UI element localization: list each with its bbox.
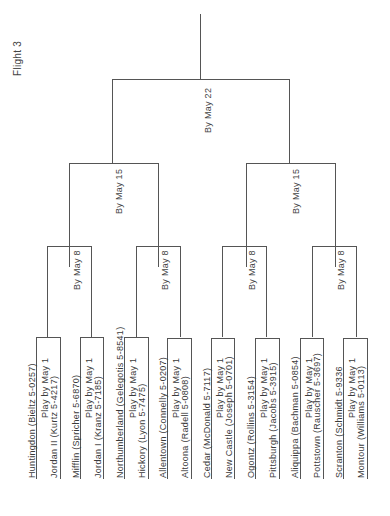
match-6-team-a: Ogontz (Rollins 5-3154) bbox=[246, 376, 256, 478]
semi-right-bar bbox=[246, 163, 335, 164]
match-6-leg-b bbox=[279, 338, 280, 479]
match-6-bar bbox=[255, 338, 279, 339]
match-2-team-b: Jordan I (Kranz 5-7185) bbox=[93, 376, 103, 478]
match-8-team-a: Scranton (Schmidt 5-9336 bbox=[334, 366, 344, 478]
match-8-leg-b bbox=[367, 338, 368, 479]
round-label-semi-left: By May 15 bbox=[114, 169, 124, 214]
round-label-final: By May 22 bbox=[203, 88, 213, 133]
match-4-leg-b bbox=[191, 338, 192, 479]
match-1-team-b: Jordan II (Kurtz 5-4217) bbox=[49, 376, 59, 478]
match-4-team-b: Altoona (Radell 5-0808) bbox=[180, 376, 190, 478]
match-5-leg-b bbox=[234, 338, 235, 479]
semi-left-leg-a bbox=[69, 163, 70, 267]
quarter-4-bar bbox=[312, 246, 356, 247]
final-left-leg bbox=[112, 79, 113, 163]
quarter-2-bar bbox=[136, 246, 180, 247]
round-label-quarter-3: By May 8 bbox=[247, 250, 257, 290]
match-7-team-a: Aliquippa (Bachman 5-0854) bbox=[290, 356, 300, 478]
match-5-team-a: Cedar (McDonald 5-7117) bbox=[202, 368, 212, 478]
quarter-1-leg-a bbox=[47, 246, 48, 337]
match-4-team-a: Allentown (Connelly 5-0207) bbox=[158, 357, 168, 478]
match-7-leg-a bbox=[300, 338, 301, 479]
quarter-2-leg-b bbox=[180, 246, 181, 337]
match-1-leg-b bbox=[60, 337, 61, 479]
quarter-4-leg-b bbox=[356, 246, 357, 337]
final-right-leg bbox=[289, 79, 290, 163]
quarter-3-leg-a bbox=[222, 246, 223, 337]
match-6-team-b: Pittsburgh (Jacobs 5-3915) bbox=[268, 362, 278, 478]
quarter-2-leg-a bbox=[136, 246, 137, 337]
match-3-team-a: Northumberland (Gelegotis 5-8541) bbox=[115, 327, 125, 478]
final-bar bbox=[112, 79, 290, 80]
round-label-quarter-4: By May 8 bbox=[336, 250, 346, 290]
round-label-quarter-1: By May 8 bbox=[72, 250, 82, 290]
match-1-bar bbox=[36, 337, 60, 338]
match-8-bar bbox=[343, 338, 367, 339]
round-label-quarter-2: By May 8 bbox=[160, 250, 170, 290]
round-label-semi-right: By May 15 bbox=[291, 169, 301, 214]
match-7-leg-b bbox=[323, 338, 324, 479]
match-5-team-b: New Castle (Joseph 5-0701) bbox=[224, 356, 234, 478]
flight-title: Flight 3 bbox=[12, 41, 23, 76]
quarter-1-bar bbox=[47, 246, 91, 247]
quarter-3-leg-b bbox=[266, 246, 267, 337]
match-3-leg-b bbox=[148, 337, 149, 479]
quarter-3-bar bbox=[222, 246, 266, 247]
match-2-bar bbox=[80, 337, 103, 338]
semi-left-bar bbox=[69, 163, 158, 164]
match-8-team-b: Montour (Williams 5-0113) bbox=[356, 366, 366, 478]
match-5-bar bbox=[211, 338, 234, 339]
semi-left-leg-b bbox=[158, 163, 159, 267]
quarter-1-leg-b bbox=[91, 246, 92, 337]
quarter-4-leg-a bbox=[312, 246, 313, 337]
match-7-team-b: Pottstown (Rauscher 5-3697) bbox=[312, 353, 322, 478]
match-2-team-a: Mifflin (Spricher 5-6870) bbox=[71, 375, 81, 478]
match-2-leg-b bbox=[103, 337, 104, 479]
match-1-team-a: Huntingdon (Bieltz 5-0257) bbox=[27, 363, 37, 478]
match-3-bar bbox=[124, 337, 148, 338]
match-3-team-b: Hickory (Lyon 5-7475) bbox=[137, 383, 147, 478]
match-4-bar bbox=[167, 338, 191, 339]
final-stem bbox=[200, 14, 201, 79]
match-7-bar bbox=[300, 338, 323, 339]
